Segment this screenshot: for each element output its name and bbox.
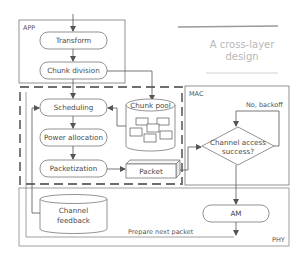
channel-access-label-1: Channel access bbox=[210, 138, 266, 147]
title-block: A cross-layer design bbox=[178, 26, 278, 73]
channel-access-decision: Channel access success? bbox=[202, 127, 274, 165]
packet-to-channel-access-arrow bbox=[180, 147, 201, 170]
channel-feedback-node: Channel feedback bbox=[40, 195, 107, 234]
title-top-rule bbox=[178, 26, 278, 27]
transform-node: Transform bbox=[40, 32, 107, 49]
title-line-2: design bbox=[225, 51, 258, 62]
packetization-node: Packetization bbox=[40, 160, 107, 177]
chunk-division-to-chunk-pool-arrow bbox=[107, 71, 152, 100]
scheduling-node: Scheduling bbox=[40, 99, 107, 116]
chunk-pool-to-scheduling-arrow bbox=[108, 108, 126, 126]
channel-feedback-label-2: feedback bbox=[57, 216, 91, 225]
chunk-division-node: Chunk division bbox=[40, 62, 107, 79]
phy-layer-label: PHY bbox=[272, 236, 285, 244]
feedback-to-scheduling-arrow bbox=[32, 108, 40, 213]
packet-node: Packet bbox=[126, 160, 180, 178]
prepare-next-packet-label: Prepare next packet bbox=[128, 228, 194, 236]
am-node: AM bbox=[203, 205, 269, 222]
packetization-label: Packetization bbox=[50, 164, 97, 173]
channel-access-label-2: success? bbox=[222, 147, 254, 156]
power-allocation-label: Power allocation bbox=[44, 133, 103, 142]
packet-label: Packet bbox=[139, 167, 163, 176]
channel-feedback-label-1: Channel bbox=[59, 206, 89, 215]
mac-layer-label: MAC bbox=[189, 90, 204, 98]
transform-label: Transform bbox=[55, 36, 92, 45]
scheduling-label: Scheduling bbox=[54, 103, 94, 112]
no-backoff-label: No, backoff bbox=[246, 101, 283, 109]
chunk-division-label: Chunk division bbox=[47, 66, 100, 75]
am-label: AM bbox=[230, 209, 241, 218]
chunk-pool-label: Chunk pool bbox=[130, 101, 171, 110]
chunk-pool-node: Chunk pool bbox=[126, 99, 175, 151]
power-allocation-node: Power allocation bbox=[40, 129, 107, 146]
app-layer-label: APP bbox=[23, 24, 35, 32]
title-line-1: A cross-layer bbox=[210, 39, 276, 50]
cross-layer-diagram: A cross-layer design APP PHY MAC Transfo… bbox=[0, 0, 304, 257]
